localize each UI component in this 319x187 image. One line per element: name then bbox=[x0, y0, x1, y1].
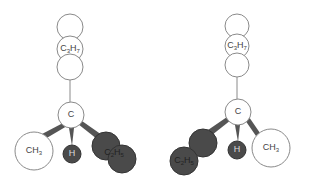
carbon-label: C bbox=[68, 109, 75, 119]
hydrogen-label: H bbox=[69, 148, 76, 158]
ethyl-atom-2 bbox=[108, 145, 136, 173]
wedge-bond-hydrogen bbox=[69, 128, 74, 146]
propyl-atom-bottom bbox=[57, 54, 83, 80]
carbon-label: C bbox=[235, 106, 242, 116]
wedge-bond-hydrogen bbox=[235, 125, 240, 142]
enantiomer-diagram: C3H7 C CH3 H C2H5 C3H7 C C2H5 bbox=[0, 0, 319, 187]
hydrogen-label: H bbox=[234, 144, 241, 154]
propyl-atom-bottom bbox=[225, 53, 249, 77]
right-molecule: C3H7 C C2H5 H CH3 bbox=[170, 14, 290, 175]
left-molecule: C3H7 C CH3 H C2H5 bbox=[15, 14, 136, 173]
